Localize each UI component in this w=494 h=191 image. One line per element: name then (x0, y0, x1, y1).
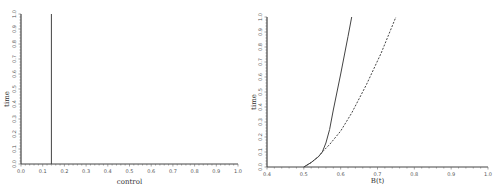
x-axis-label: B(t) (371, 177, 385, 185)
x-tick-label: 0.5 (300, 171, 308, 177)
y-tick-label: 0.7 (11, 55, 17, 63)
y-tick-label: 0.2 (11, 130, 17, 138)
y-tick-label: 0.9 (11, 25, 17, 33)
y-tick-label: 0.1 (257, 148, 263, 156)
x-tick-label: 1.0 (234, 168, 242, 174)
x-tick-label: 0.4 (104, 168, 112, 174)
x-tick-label: 1.0 (484, 171, 492, 177)
y-tick-label: 0.6 (257, 73, 263, 81)
chart-canvas: 0.00.10.20.30.40.50.60.70.80.91.00.00.10… (0, 0, 494, 191)
y-tick-label: 0.3 (11, 115, 17, 123)
x-tick-label: 0.6 (147, 168, 155, 174)
y-tick-label: 0.5 (257, 88, 263, 96)
y-tick-label: 0.2 (257, 133, 263, 141)
y-tick-label: 0.7 (257, 58, 263, 66)
x-tick-label: 0.7 (169, 168, 177, 174)
x-tick-label: 0.5 (126, 168, 134, 174)
x-tick-label: 0.9 (212, 168, 220, 174)
y-axis-label: time (250, 94, 258, 110)
x-tick-label: 0.3 (82, 168, 90, 174)
y-axis-label: time (3, 91, 11, 107)
x-tick-label: 0.2 (60, 168, 68, 174)
y-tick-label: 0.5 (11, 85, 17, 93)
y-tick-label: 0.4 (257, 103, 263, 111)
y-tick-label: 0.8 (11, 40, 17, 48)
y-tick-label: 1.0 (257, 13, 263, 21)
y-tick-label: 0.0 (257, 163, 263, 171)
y-tick-label: 0.9 (257, 28, 263, 36)
x-tick-label: 0.4 (263, 171, 271, 177)
x-tick-label: 0.9 (447, 171, 455, 177)
x-tick-label: 0.8 (410, 171, 418, 177)
x-axis-label: control (117, 178, 143, 186)
y-tick-label: 0.1 (11, 145, 17, 153)
x-tick-label: 0.1 (39, 168, 47, 174)
y-tick-label: 0.6 (11, 70, 17, 78)
series-dashed (304, 17, 396, 167)
y-tick-label: 0.4 (11, 100, 17, 108)
x-tick-label: 0.0 (17, 168, 25, 174)
y-tick-label: 0.8 (257, 43, 263, 51)
y-tick-label: 0.3 (257, 118, 263, 126)
x-tick-label: 0.8 (191, 168, 199, 174)
series-solid (304, 17, 352, 167)
x-tick-label: 0.6 (337, 171, 345, 177)
y-tick-label: 1.0 (11, 10, 17, 18)
y-tick-label: 0.0 (11, 160, 17, 168)
